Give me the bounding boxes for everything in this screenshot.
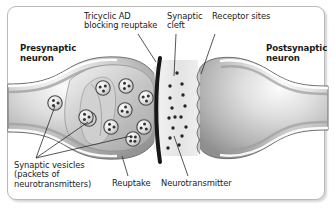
- neurotransmitter-dot: [181, 93, 184, 96]
- label-receptor-sites: Receptor sites: [212, 12, 270, 21]
- leader-reuptake: [122, 156, 128, 176]
- synaptic-vesicle: [139, 91, 153, 105]
- label-presynaptic-neuron: Presynaptic neuron: [20, 44, 76, 63]
- neurotransmitter-dot: [175, 71, 178, 74]
- synaptic-vesicle: [104, 120, 118, 134]
- postsynaptic-neuron: [197, 57, 328, 158]
- synaptic-vesicle: [126, 132, 140, 146]
- label-synaptic-vesicles: Synaptic vesicles (packets of neurotrans…: [14, 161, 91, 189]
- neurotransmitter-dot: [168, 84, 171, 87]
- synaptic-cleft-band: [160, 60, 198, 156]
- synaptic-vesicle: [119, 79, 133, 93]
- neurotransmitter-dot: [183, 104, 186, 107]
- label-postsynaptic-neuron: Postsynaptic neuron: [266, 44, 327, 63]
- synapse-figure: Tricyclic AD blocking reuptake Synaptic …: [0, 0, 335, 211]
- label-tricyclic-ad: Tricyclic AD blocking reuptake: [84, 12, 157, 31]
- synaptic-vesicle: [137, 120, 151, 134]
- label-synaptic-cleft: Synaptic cleft: [167, 12, 202, 31]
- synaptic-vesicle: [48, 96, 62, 110]
- neurotransmitter-dot: [167, 116, 170, 119]
- leader-tricyclic: [138, 34, 156, 62]
- label-reuptake: Reuptake: [112, 179, 151, 188]
- neurotransmitter-dot: [171, 126, 174, 129]
- neurotransmitter-dot: [180, 82, 183, 85]
- neurotransmitter-dot: [173, 115, 176, 118]
- neurotransmitter-dot: [168, 96, 171, 99]
- neurotransmitter-dot: [180, 134, 183, 137]
- synaptic-vesicle: [118, 103, 132, 117]
- synaptic-vesicle: [96, 81, 110, 95]
- neurotransmitter-dot: [184, 125, 187, 128]
- neurotransmitter-dot: [168, 136, 171, 139]
- neurotransmitter-dot: [170, 106, 173, 109]
- label-neurotransmitter: Neurotransmitter: [161, 179, 232, 188]
- postsynaptic-membrane: [199, 57, 328, 158]
- synaptic-vesicle: [79, 110, 93, 124]
- neurotransmitter-dot: [179, 115, 182, 118]
- neurotransmitter-dot: [166, 146, 169, 149]
